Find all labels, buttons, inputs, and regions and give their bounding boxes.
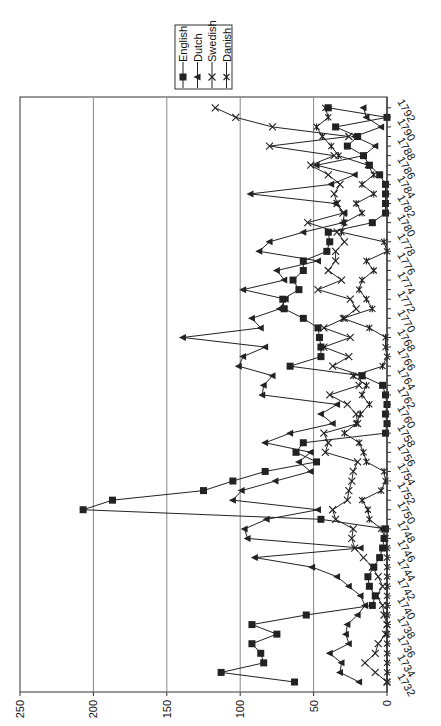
value-tick-label: 0	[381, 700, 393, 706]
legend-label: Dutch	[192, 33, 204, 62]
year-axis: 1732173417361738174017421744174617481750…	[387, 97, 418, 698]
value-axis: 050100150200250	[14, 692, 393, 718]
value-tick-label: 100	[234, 700, 246, 718]
legend-label: Swedish	[206, 20, 218, 62]
legend: EnglishDutchSwedishDanish	[175, 20, 233, 89]
value-tick-label: 50	[308, 700, 320, 712]
value-tick-label: 250	[14, 700, 26, 718]
value-tick-label: 200	[87, 700, 99, 718]
legend-label: Danish	[221, 28, 233, 62]
value-tick-label: 150	[161, 700, 173, 718]
legend-label: English	[177, 26, 189, 62]
rotated-line-chart: 050100150200250 173217341736173817401742…	[0, 0, 441, 726]
